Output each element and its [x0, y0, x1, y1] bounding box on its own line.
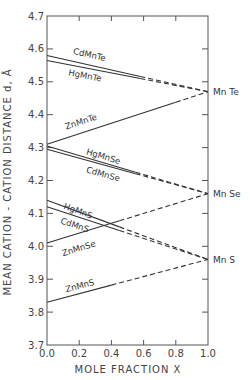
y-tick-label: 4.6	[28, 43, 44, 54]
series-label: ZnMnSe	[61, 238, 97, 258]
endpoint-label: Mn Te	[213, 87, 239, 97]
series-label: CdMnTe	[72, 46, 106, 63]
series-line-dashed	[176, 92, 208, 103]
series-line-dashed	[111, 259, 208, 285]
series-znmns: ZnMnS	[47, 259, 208, 302]
y-tick-label: 4.7	[28, 11, 44, 22]
series-label: CdMnSe	[85, 165, 121, 184]
x-axis: 0.00.20.40.60.81.0	[39, 16, 216, 359]
x-tick-label: 0.4	[103, 348, 119, 359]
y-tick-label: 3.7	[28, 340, 44, 351]
series-label: ZnMnS	[64, 277, 95, 294]
y-tick-label: 4.1	[28, 208, 44, 219]
series-line-dashed	[140, 79, 208, 92]
series-znmnte: ZnMnTe	[47, 92, 208, 145]
y-tick-label: 4.0	[28, 241, 44, 252]
y-tick-label: 3.8	[28, 307, 44, 318]
y-tick-label: 4.5	[28, 76, 44, 87]
series-hgmnte: HgMnTe	[47, 60, 208, 91]
y-tick-label: 4.3	[28, 142, 44, 153]
x-tick-label: 0.6	[136, 348, 152, 359]
endpoint-labels: Mn TeMn SeMn S	[213, 87, 241, 265]
series-line-dashed	[119, 227, 208, 260]
y-tick-label: 4.4	[28, 109, 44, 120]
y-tick-label: 3.9	[28, 274, 44, 285]
series-line-dashed	[136, 172, 208, 193]
x-tick-label: 1.0	[200, 348, 216, 359]
series-label: ZnMnTe	[64, 112, 98, 132]
x-tick-label: 0.8	[168, 348, 184, 359]
x-tick-label: 0.2	[71, 348, 87, 359]
series-group: CdMnTeHgMnTeZnMnTeHgMnSeCdMnSeHgMnSCdMnS…	[47, 46, 208, 302]
endpoint-label: Mn Se	[213, 189, 241, 199]
series-cdmnse: CdMnSe	[47, 149, 208, 193]
chart: 0.00.20.40.60.81.0 3.73.83.94.04.14.24.3…	[0, 0, 252, 380]
series-line-dashed	[119, 194, 208, 221]
endpoint-label: Mn S	[213, 255, 235, 265]
x-axis-title: MOLE FRACTION X	[75, 364, 182, 375]
y-tick-label: 4.2	[28, 175, 44, 186]
y-axis-title: MEAN CATION - CATION DISTANCE d, Å	[1, 68, 13, 295]
